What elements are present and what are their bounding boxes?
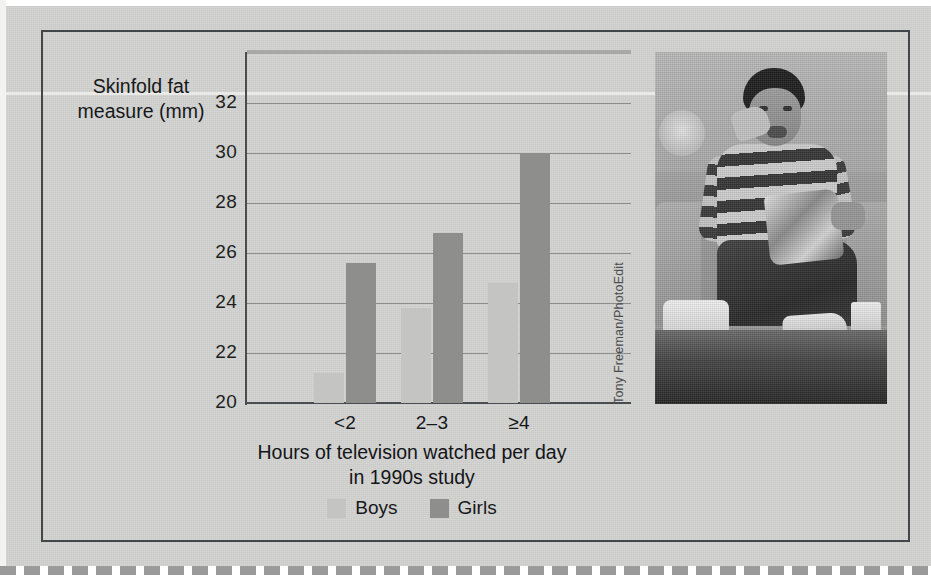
y-tick-label-24: 24 [193, 291, 237, 313]
legend-item-girls: Girls [430, 497, 497, 519]
y-axis-title: Skinfold fat measure (mm) [52, 74, 230, 124]
y-axis-title-line1: Skinfold fat [52, 74, 230, 99]
x-axis-title: Hours of television watched per day in 1… [200, 440, 624, 490]
y-axis-title-line2: measure (mm) [52, 99, 230, 124]
x-tick-label-1: 2–3 [416, 412, 448, 434]
legend-swatch-boys [327, 499, 346, 518]
page-top-margin [0, 0, 931, 6]
page-bottom-margin [0, 575, 931, 584]
y-tick-label-22: 22 [193, 341, 237, 363]
x-tick-label-2: ≥4 [508, 412, 529, 434]
photo-chip-bag [764, 188, 845, 265]
y-tick-label-28: 28 [193, 191, 237, 213]
bars-layer [247, 52, 631, 403]
legend-label-girls: Girls [458, 497, 497, 519]
legend-label-boys: Boys [355, 497, 397, 519]
y-tick-label-20: 20 [193, 391, 237, 413]
chart-legend: BoysGirls [200, 497, 624, 519]
photo-table-front [655, 330, 887, 404]
bar-girls-0 [346, 263, 376, 403]
photo-boy-hand-right [831, 202, 865, 230]
photo-credit: Tony Freeman/PhotoEdit [612, 244, 626, 404]
photo-lamp [659, 110, 705, 156]
x-axis-title-line2: in 1990s study [200, 465, 624, 490]
y-tick-label-26: 26 [193, 241, 237, 263]
page-dashed-rule [0, 566, 931, 575]
bar-boys-2 [488, 283, 518, 403]
bar-girls-2 [520, 153, 550, 403]
bar-boys-1 [401, 308, 431, 403]
photo-block [655, 52, 887, 404]
x-axis-title-line1: Hours of television watched per day [200, 440, 624, 465]
photo-image [655, 52, 887, 404]
x-tick-label-0: <2 [334, 412, 356, 434]
bar-girls-1 [433, 233, 463, 403]
y-tick-label-30: 30 [193, 141, 237, 163]
photo-boy-eye-right [783, 106, 792, 111]
legend-swatch-girls [430, 499, 449, 518]
legend-item-boys: Boys [327, 497, 397, 519]
bar-boys-0 [314, 373, 344, 403]
page-left-margin [0, 0, 6, 566]
